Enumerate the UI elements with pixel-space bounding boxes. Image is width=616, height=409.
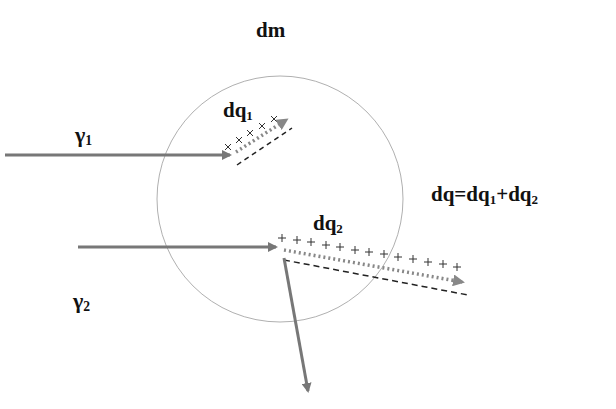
dq1-base: dq: [223, 98, 246, 122]
gamma1-sub: 1: [85, 133, 92, 148]
gamma2-base: γ: [73, 288, 83, 313]
dq2-track-dashed: [284, 260, 468, 295]
dq2-sub: 2: [336, 221, 343, 236]
title-dm: dm: [256, 20, 285, 41]
gamma1-base: γ: [75, 122, 85, 147]
equation-mid: +dq: [496, 182, 531, 206]
charge-sum-equation: dq=dq1+dq2: [431, 184, 538, 206]
dq2-label: dq2: [313, 213, 343, 235]
gamma2-label: γ2: [73, 290, 90, 314]
dq1-sub: 1: [246, 108, 253, 123]
equation-sub2: 2: [532, 192, 539, 207]
equation-lhs: dq=dq: [431, 182, 490, 206]
mass-element-circle: [157, 76, 403, 322]
gamma1-label: γ1: [75, 124, 92, 148]
dq2-base: dq: [313, 211, 336, 235]
dq1-label: dq1: [223, 100, 253, 122]
recoil-arrow: [284, 258, 308, 391]
gamma2-sub: 2: [83, 299, 90, 314]
